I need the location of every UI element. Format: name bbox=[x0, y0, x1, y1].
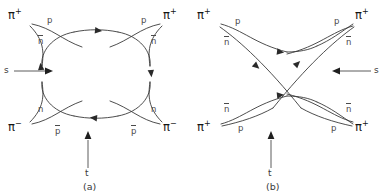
arrowhead-mandelstam-t-a bbox=[85, 131, 92, 139]
arrowhead-mandelstam-s-b bbox=[332, 68, 340, 75]
line-a-inner-top-right bbox=[118, 32, 150, 66]
quark-label-a-bottom-right-upper: n bbox=[151, 105, 156, 114]
panel-a: π+ π+ π− π− p n p n n p bbox=[0, 0, 192, 196]
particle-label-a-top-left: π+ bbox=[8, 10, 22, 22]
line-b-bottom-outer-right bbox=[287, 94, 353, 122]
arrowhead-a-bottom bbox=[90, 114, 98, 121]
caption-b: (b) bbox=[266, 182, 279, 192]
quark-label-b-top-right-upper: p bbox=[334, 17, 339, 26]
quark-label-b-bottom-left-lower: p bbox=[238, 124, 243, 133]
quark-line-diagram-figure: π+ π+ π− π− p n p n n p bbox=[0, 0, 383, 196]
particle-label-b-bottom-right: π+ bbox=[355, 122, 369, 134]
particle-label-a-bottom-right: π− bbox=[163, 122, 177, 134]
mandelstam-s-label-b: s bbox=[374, 66, 379, 75]
caption-a: (a) bbox=[83, 182, 96, 192]
mandelstam-t-label-a: t bbox=[85, 169, 89, 178]
quark-label-a-top-left-lower: n bbox=[38, 35, 43, 45]
quark-label-b-bottom-right-upper: n bbox=[346, 103, 351, 113]
quark-label-b-bottom-left-upper: n bbox=[224, 103, 229, 113]
line-b-top-outer-right bbox=[287, 26, 353, 54]
arrowhead-a-right bbox=[148, 70, 155, 78]
particle-label-a-top-right: π+ bbox=[163, 10, 177, 22]
line-a-right-outer-bottom bbox=[149, 82, 162, 122]
arrowhead-mandelstam-s-a bbox=[45, 68, 53, 75]
line-b-cross-tail-bl bbox=[222, 108, 273, 126]
particle-label-a-bottom-left: π− bbox=[8, 122, 22, 134]
particle-label-b-top-left: π+ bbox=[197, 10, 211, 22]
line-b-bottom-outer-left bbox=[221, 96, 287, 124]
arrowhead-b-top bbox=[277, 48, 285, 55]
panel-b: π+ π+ π+ π+ p n p n n p bbox=[191, 0, 383, 196]
mandelstam-t-label-b: t bbox=[268, 169, 272, 178]
line-a-inner-top-left bbox=[42, 32, 74, 66]
quark-label-a-top-right-lower: n bbox=[151, 35, 156, 45]
particle-label-b-bottom-left: π+ bbox=[197, 122, 211, 134]
quark-label-b-top-right-lower: n bbox=[346, 36, 351, 46]
quark-label-a-top-right-upper: p bbox=[141, 16, 146, 25]
particle-label-b-top-right: π+ bbox=[355, 10, 369, 22]
line-a-inner-bottom-left bbox=[42, 82, 74, 116]
quark-label-b-top-left-upper: p bbox=[235, 17, 240, 26]
arrowhead-b-upper-right-diagonal bbox=[293, 59, 303, 69]
line-a-right-outer-top bbox=[149, 26, 162, 66]
line-a-inner-bottom-right bbox=[118, 82, 150, 116]
line-a-left-outer-bottom bbox=[30, 82, 43, 122]
panel-a-lines bbox=[0, 0, 192, 196]
line-b-cross-tr-bl bbox=[273, 27, 354, 108]
arrowhead-a-top bbox=[95, 27, 103, 34]
quark-label-b-top-left-lower: n bbox=[224, 36, 229, 46]
line-a-left-outer-top bbox=[30, 26, 43, 66]
arrowhead-b-upper-left-diagonal bbox=[252, 62, 262, 72]
arrowhead-mandelstam-t-b bbox=[268, 131, 275, 139]
panel-b-lines bbox=[191, 0, 383, 196]
quark-label-a-top-left-upper: p bbox=[47, 16, 52, 25]
line-b-top-outer-left bbox=[221, 24, 287, 52]
mandelstam-s-label-a: s bbox=[4, 66, 9, 75]
quark-label-a-bottom-left-lower: p bbox=[55, 125, 60, 135]
arrowhead-a-left bbox=[37, 63, 44, 71]
quark-label-b-bottom-right-lower: p bbox=[331, 124, 336, 133]
quark-label-a-bottom-right-lower: p bbox=[131, 125, 136, 135]
quark-label-a-bottom-left-upper: n bbox=[38, 105, 43, 114]
